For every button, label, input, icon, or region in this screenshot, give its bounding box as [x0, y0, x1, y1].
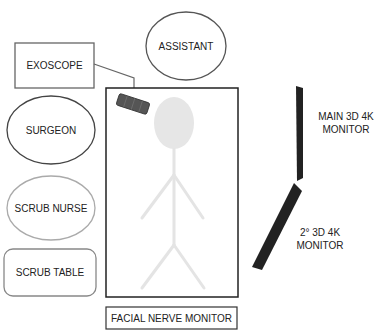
assistant-label: ASSISTANT [146, 12, 226, 80]
second-monitor-label-line1: 2° 3D 4K [300, 226, 340, 239]
main-monitor-label-line1: MAIN 3D 4K [318, 110, 374, 123]
exoscope-label: EXOSCOPE [15, 43, 94, 88]
second-monitor-label-line2: MONITOR [296, 239, 343, 252]
scrub-nurse-label: SCRUB NURSE [7, 176, 95, 240]
surgeon-label: SURGEON [7, 96, 95, 164]
main-monitor-label-line2: MONITOR [322, 123, 369, 136]
main-monitor-label: MAIN 3D 4K MONITOR [312, 108, 380, 138]
second-monitor-label: 2° 3D 4K MONITOR [288, 224, 352, 254]
facial-nerve-monitor-label: FACIAL NERVE MONITOR [106, 307, 237, 329]
main-monitor-icon [296, 86, 303, 181]
scrub-table-label: SCRUB TABLE [4, 249, 96, 296]
